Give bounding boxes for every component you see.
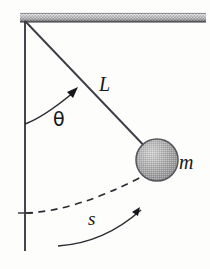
pendulum-diagram-canvas xyxy=(0,0,210,269)
angle-arc-arrow xyxy=(25,87,78,124)
hatched-ceiling-bar xyxy=(20,13,206,22)
label-arc-length-s: s xyxy=(88,209,95,228)
label-angle-theta: θ xyxy=(53,110,65,129)
pendulum-string xyxy=(25,21,152,154)
swing-direction-arrow xyxy=(58,202,148,246)
label-mass-m: m xyxy=(179,152,193,172)
label-length-L: L xyxy=(99,74,110,94)
dashed-swing-arc xyxy=(26,177,141,213)
pendulum-figure: L θ m s xyxy=(0,0,210,269)
pendulum-bob xyxy=(136,139,178,181)
